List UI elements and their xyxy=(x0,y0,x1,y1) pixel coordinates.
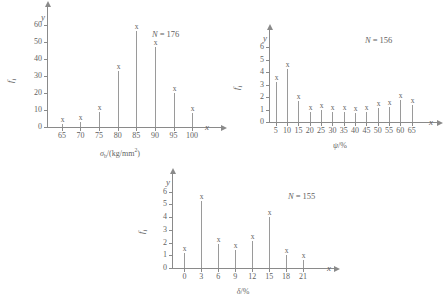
y-axis-tick-label: 5 xyxy=(146,200,167,208)
data-stem xyxy=(269,217,270,268)
y-axis-tick xyxy=(169,268,172,269)
data-stem xyxy=(184,253,185,268)
data-stem xyxy=(235,250,236,268)
y-axis-tick-label: 4 xyxy=(146,213,167,221)
y-axis-title-subscript: i xyxy=(141,230,148,232)
y-axis-tick-label: 3 xyxy=(146,226,167,234)
x-axis-arrow-icon xyxy=(334,266,340,272)
x-axis-title-unit: /% xyxy=(240,287,249,296)
scatter-plot-3: 0123456036912151821xxxxxxxxN= 155yxfiδ/% xyxy=(0,0,444,308)
data-point-marker: x xyxy=(246,233,259,241)
data-point-marker: x xyxy=(280,247,293,255)
data-stem xyxy=(252,241,253,268)
y-axis-tick xyxy=(169,255,172,256)
y-axis-tick xyxy=(169,204,172,205)
y-axis-line xyxy=(172,174,173,269)
sample-size-value: = 155 xyxy=(296,191,316,201)
data-stem xyxy=(286,255,287,268)
data-stem xyxy=(303,260,304,268)
y-axis-tick xyxy=(169,230,172,231)
x-axis-line xyxy=(172,268,334,269)
y-axis-tick xyxy=(169,192,172,193)
y-axis-tick-label: 6 xyxy=(146,188,167,196)
x-axis-tick-label: 21 xyxy=(292,273,314,281)
x-axis-title: δ/% xyxy=(188,287,298,296)
y-axis-tick xyxy=(169,217,172,218)
y-axis-title: fi xyxy=(137,230,149,234)
data-point-marker: x xyxy=(297,252,310,260)
data-stem xyxy=(201,201,202,268)
y-axis-tick-label: 0 xyxy=(146,264,167,272)
data-point-marker: x xyxy=(229,242,242,250)
data-point-marker: x xyxy=(263,209,276,217)
sample-size-symbol: N xyxy=(288,191,294,201)
data-point-marker: x xyxy=(212,236,225,244)
y-axis-tick xyxy=(169,243,172,244)
x-axis-variable-name: x xyxy=(327,264,331,273)
sample-size-annotation: N= 155 xyxy=(288,192,315,201)
y-axis-arrow-icon xyxy=(170,168,176,174)
data-point-marker: x xyxy=(195,193,208,201)
y-axis-tick-label: 1 xyxy=(146,251,167,259)
y-axis-variable-name: y xyxy=(166,178,170,187)
data-point-marker: x xyxy=(178,245,191,253)
data-stem xyxy=(218,244,219,268)
y-axis-tick-label: 2 xyxy=(146,239,167,247)
y-axis-title-base: f xyxy=(136,232,146,235)
